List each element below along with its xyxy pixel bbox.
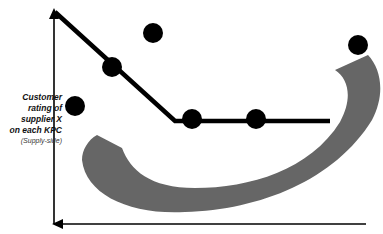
data-point [182,109,202,129]
y-axis-label-line: on each KPC [0,125,62,136]
data-point [65,96,85,116]
y-axis-label-line: rating of [0,103,62,114]
y-axis-label: Customer rating of supplier X on each KP… [0,92,62,145]
y-axis-label-line: Customer [0,92,62,103]
y-axis-label-line: supplier X [0,114,62,125]
data-point [246,109,266,129]
kpc-rating-diagram: Customer rating of supplier X on each KP… [0,0,383,234]
data-points [65,23,368,129]
y-axis-sublabel: (Supply-side) [0,136,62,145]
requirement-line [55,12,330,121]
data-point [102,57,122,77]
data-point [348,35,368,55]
data-point [143,23,163,43]
